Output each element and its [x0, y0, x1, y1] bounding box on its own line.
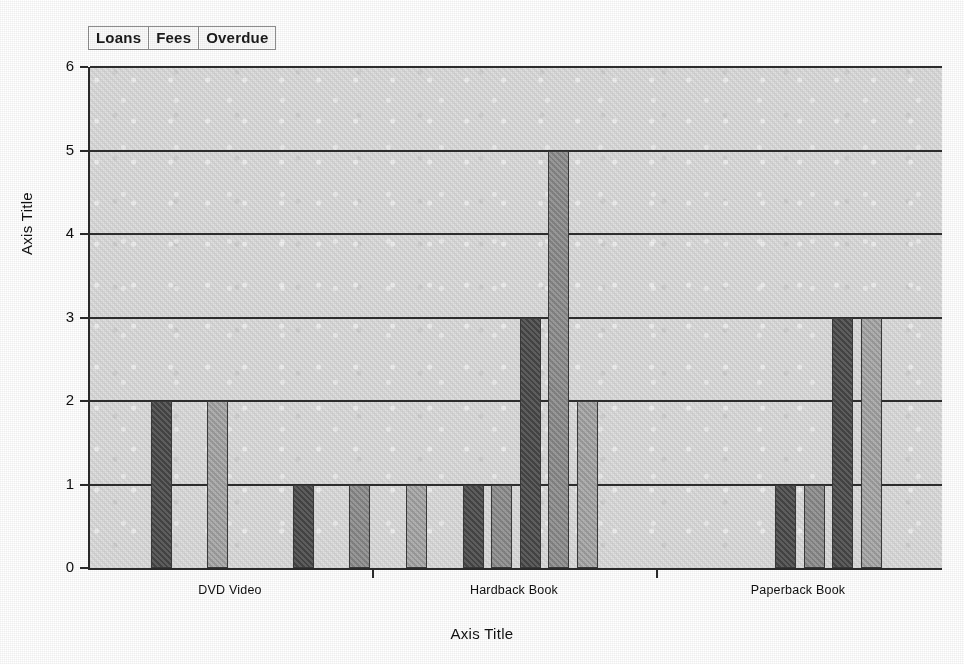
y-tick-label: 4 [66, 227, 74, 239]
legend-item-overdue: Overdue [198, 26, 276, 50]
gridline [90, 66, 942, 68]
y-tick-label: 2 [66, 394, 74, 406]
y-tick-label: 0 [66, 561, 74, 573]
y-tick-mark [80, 400, 88, 402]
y-tick-mark [80, 66, 88, 68]
y-tick-mark [80, 567, 88, 569]
bar-overdue [861, 318, 882, 569]
bar-overdue [207, 401, 228, 568]
y-tick-mark [80, 317, 88, 319]
y-tick-mark [80, 233, 88, 235]
y-tick-label: 1 [66, 478, 74, 490]
x-tick-mark [372, 569, 374, 578]
y-tick-mark [80, 150, 88, 152]
bar-loans [293, 485, 314, 569]
gridline [90, 150, 942, 152]
bar-loans [832, 318, 853, 569]
bar-loans [520, 318, 541, 569]
y-tick-mark [80, 484, 88, 486]
bar-loans [775, 485, 796, 569]
chart-legend: LoansFeesOverdue [88, 26, 275, 50]
y-tick-label: 5 [66, 144, 74, 156]
gridline [90, 317, 942, 319]
plot-area [88, 67, 942, 570]
y-axis-title: Axis Title [18, 192, 35, 255]
bar-loans [151, 401, 172, 568]
bar-loans [463, 485, 484, 569]
bar-fees [804, 485, 825, 569]
x-category-label: Paperback Book [751, 583, 846, 597]
bar-overdue [577, 401, 598, 568]
legend-item-fees: Fees [148, 26, 199, 50]
gridline [90, 233, 942, 235]
x-axis-title: Axis Title [0, 625, 964, 642]
bar-overdue [406, 485, 427, 569]
y-tick-label: 3 [66, 311, 74, 323]
legend-item-loans: Loans [88, 26, 149, 50]
bar-fees [491, 485, 512, 569]
x-category-label: DVD Video [198, 583, 261, 597]
y-tick-label: 6 [66, 60, 74, 72]
x-tick-mark [656, 569, 658, 578]
bar-fees [349, 485, 370, 569]
y-axis: 0123456 [0, 0, 88, 664]
x-category-label: Hardback Book [470, 583, 558, 597]
bar-fees [548, 151, 569, 569]
